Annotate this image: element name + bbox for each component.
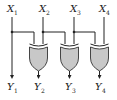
junction-dot-x1 [11, 31, 14, 34]
input-label-x4: X 4 [98, 3, 110, 16]
svg-text:2: 2 [46, 9, 50, 16]
output-label-y3: Y 3 [65, 81, 76, 94]
xor-gate-3-icon [91, 44, 109, 71]
svg-text:1: 1 [14, 9, 18, 16]
wire-x3-to-gate3 [74, 32, 95, 44]
output-label-y4: Y 4 [95, 81, 106, 94]
xor-gate-2-icon [61, 44, 79, 71]
input-label-x3: X 3 [69, 3, 81, 16]
input-label-x1: X 1 [6, 3, 18, 16]
svg-text:3: 3 [77, 9, 81, 16]
input-label-x2: X 2 [38, 3, 50, 16]
svg-text:4: 4 [106, 9, 110, 16]
svg-text:1: 1 [14, 87, 18, 94]
junction-dot-x3 [73, 31, 76, 34]
svg-text:2: 2 [41, 87, 45, 94]
svg-text:3: 3 [72, 87, 76, 94]
output-label-y1: Y 1 [7, 81, 18, 94]
wire-x2-to-gate2 [43, 32, 65, 44]
circuit-diagram: X 1 X 2 X 3 X 4 Y 1 [0, 0, 117, 100]
svg-text:4: 4 [102, 87, 106, 94]
xor-gate-1-icon [30, 44, 48, 71]
wire-x1-to-gate1 [12, 32, 34, 44]
junction-dot-x2 [42, 31, 45, 34]
output-label-y2: Y 2 [34, 81, 45, 94]
